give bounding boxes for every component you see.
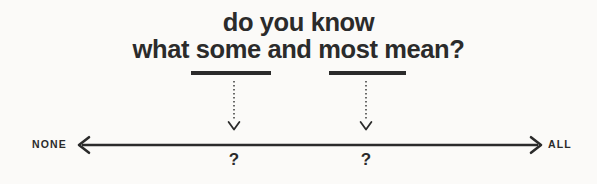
scale-axis xyxy=(70,132,550,158)
underline-some xyxy=(191,71,271,75)
dotted-down-arrow-icon-most xyxy=(359,81,373,131)
page-title: do you know what some and most mean? xyxy=(0,9,597,63)
infographic-canvas: do you know what some and most mean? NON… xyxy=(0,0,597,184)
question-mark-most: ? xyxy=(356,150,376,170)
underline-most xyxy=(329,71,406,75)
question-mark-some: ? xyxy=(224,150,244,170)
dotted-down-arrow-icon-some xyxy=(227,81,241,131)
axis-label-all: ALL xyxy=(548,138,572,150)
title-line-1: do you know xyxy=(0,9,597,36)
title-line-2: what some and most mean? xyxy=(0,36,597,63)
axis-label-none: NONE xyxy=(32,138,67,150)
